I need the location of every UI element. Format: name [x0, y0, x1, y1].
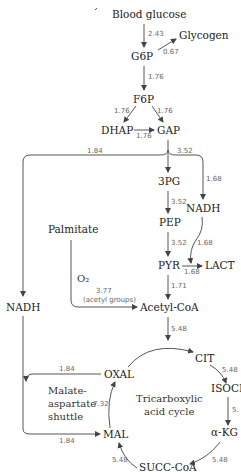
label-tca-2: acid cycle — [144, 406, 194, 417]
node-pyr: PYR — [158, 259, 181, 271]
rate-gap-nadh-left: 1.84 — [87, 147, 103, 155]
node-nadh-left: NADH — [6, 301, 40, 313]
node-oxal: OXAL — [104, 368, 134, 380]
arrow-oxal-nadh — [26, 374, 101, 381]
rate-glucose-g6p: 2.43 — [148, 30, 164, 38]
node-g6p: G6P — [131, 50, 153, 62]
rate-oxal-nadh: 1.84 — [59, 365, 75, 373]
node-acetyl-coa: Acetyl-CoA — [139, 301, 199, 313]
node-cit: CIT — [195, 352, 214, 364]
node-dhap: DHAP — [101, 124, 133, 136]
metabolic-pathway-diagram: Blood glucose Glycogen G6P F6P DHAP GAP … — [0, 0, 241, 476]
node-isocit: ISOCIT — [211, 382, 241, 394]
label-tca-1: Tricarboxylic — [136, 393, 203, 404]
node-blood-glucose: Blood glucose — [112, 8, 186, 20]
node-3pg: 3PG — [158, 175, 180, 187]
rate-g6p-glycogen: 0.67 — [163, 48, 179, 56]
rate-isocit-akg: 5. — [232, 406, 239, 414]
rate-g6p-f6p: 1.76 — [148, 73, 164, 81]
label-shuttle-2: aspartate — [48, 398, 96, 409]
node-glycogen: Glycogen — [179, 29, 229, 41]
rate-f6p-dhap: 1.76 — [114, 107, 130, 115]
node-lact: LACT — [205, 259, 235, 271]
label-shuttle-3: shuttle — [48, 411, 83, 422]
rate-dhap-gap: 1.76 — [136, 132, 152, 140]
rate-pyr-acetyl: 1.71 — [171, 282, 187, 290]
rate-cit-isocit: 5.48 — [222, 366, 238, 374]
node-f6p: F6P — [133, 93, 154, 105]
rate-akg-succ: 5.48 — [212, 456, 228, 464]
stray-mark — [95, 8, 97, 10]
rate-acetyl-cit: 5.48 — [171, 325, 187, 333]
node-akg: α-KG — [211, 426, 238, 438]
rate-nadh-lact: 1.68 — [197, 239, 213, 247]
node-succ-coa: SUCC-CoA — [139, 461, 197, 473]
node-palmitate: Palmitate — [48, 223, 98, 235]
label-acetyl-groups: (acetyl groups) — [83, 296, 136, 304]
rate-pyr-lact: 1.68 — [184, 268, 200, 276]
rate-f6p-gap: 1.76 — [157, 107, 173, 115]
rate-palmitate-acetyl: 3.77 — [96, 287, 112, 295]
label-o2: O₂ — [77, 273, 89, 284]
rate-succ-mal: 5.48 — [112, 456, 128, 464]
rate-gap-nadh-right: 1.68 — [206, 175, 222, 183]
rate-nadh-mal: 1.84 — [59, 437, 75, 445]
arrow-oxal-cit — [128, 348, 193, 367]
label-shuttle-1: Malate- — [48, 385, 87, 396]
node-pep: PEP — [159, 216, 181, 228]
rate-3pg-pep: 3.52 — [171, 198, 187, 206]
node-gap: GAP — [157, 124, 180, 136]
node-mal: MAL — [103, 428, 128, 440]
rate-gap-3pg: 3.52 — [177, 147, 193, 155]
rate-mal-oxal: 7.32 — [93, 400, 109, 408]
arrow-mal-oxal — [109, 382, 115, 428]
node-nadh-right: NADH — [186, 202, 220, 214]
rate-pep-pyr: 3.52 — [171, 239, 187, 247]
